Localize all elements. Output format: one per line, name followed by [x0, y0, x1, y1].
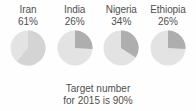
pie-svg-nigeria — [103, 30, 139, 66]
pie-graphic — [57, 30, 93, 66]
pie-chart-nigeria: Nigeria 34% — [98, 4, 144, 66]
pie-label-country: Iran — [20, 4, 37, 16]
pie-graphic — [10, 30, 46, 66]
caption-line-2: for 2015 is 90% — [0, 95, 196, 107]
caption-line-1: Target number — [0, 83, 196, 95]
pie-graphic — [150, 30, 186, 66]
pie-slice-value — [75, 31, 92, 50]
pie-svg-iran — [10, 30, 46, 66]
pie-slice-value — [168, 31, 185, 50]
pie-graphic — [103, 30, 139, 66]
pie-label-country: Nigeria — [106, 4, 137, 16]
pie-label-country: Ethiopia — [150, 4, 185, 16]
pie-chart-india: India 26% — [52, 4, 98, 66]
pie-label-value: 61% — [18, 16, 38, 28]
pie-svg-ethiopia — [150, 30, 186, 66]
pie-chart-iran: Iran 61% — [5, 4, 51, 66]
pie-chart-ethiopia: Ethiopia 26% — [145, 4, 191, 66]
pie-label-value: 34% — [111, 16, 131, 28]
pie-svg-india — [57, 30, 93, 66]
chart-caption: Target number for 2015 is 90% — [0, 83, 196, 107]
pie-chart-row: Iran 61% India 26% Nigeria 34% — [0, 0, 196, 66]
pie-chart-figure: Iran 61% India 26% Nigeria 34% — [0, 0, 196, 111]
pie-label-value: 26% — [158, 16, 178, 28]
pie-label-value: 26% — [65, 16, 85, 28]
pie-label-country: India — [64, 4, 85, 16]
